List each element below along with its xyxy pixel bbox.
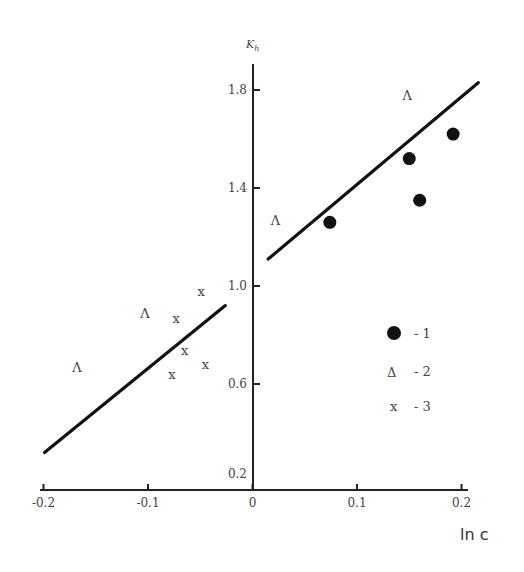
fit-lines: [45, 83, 479, 453]
legend: - 1 Δ - 2 x - 3: [387, 326, 431, 414]
x-tick-label: 0: [249, 496, 257, 510]
y-tick-label: 1.8: [228, 83, 247, 97]
legend-label-2: - 2: [414, 364, 431, 379]
legend-label-3: - 3: [414, 399, 431, 414]
legend-triangle-icon: Δ: [387, 365, 396, 380]
x-marker-icon: x: [202, 357, 210, 372]
triangle-marker-icon: Λ: [401, 88, 412, 103]
triangle-marker-icon: Λ: [139, 306, 150, 321]
y-tick-label: 1.4: [228, 181, 247, 195]
x-tick-label: 0.1: [347, 496, 366, 510]
x-marker-icon: x: [173, 311, 181, 326]
chart: -0.2-0.100.10.2 0.20.61.01.41.8 Kh ln c …: [0, 0, 524, 572]
x-marker-icon: x: [168, 367, 176, 382]
y-ticks: 0.20.61.01.41.8: [228, 83, 260, 481]
circle-marker-icon: [413, 194, 426, 207]
y-tick-label: 0.2: [228, 467, 247, 481]
x-tick-label: -0.1: [136, 496, 159, 510]
x-tick-label: -0.2: [32, 496, 55, 510]
y-axis-label: Kh: [245, 38, 259, 53]
legend-x-icon: x: [390, 399, 398, 414]
fit-right-line: [268, 83, 478, 259]
x-tick-label: 0.2: [452, 496, 471, 510]
y-tick-label: 1.0: [228, 279, 247, 293]
triangle-marker-icon: Λ: [270, 213, 281, 228]
circle-marker-icon: [323, 216, 336, 229]
legend-label-1: - 1: [414, 326, 431, 341]
fit-left-line: [45, 306, 226, 453]
legend-circle-icon: [387, 326, 401, 340]
y-tick-label: 0.6: [228, 377, 247, 391]
x-ticks: -0.2-0.100.10.2: [32, 484, 471, 510]
x-marker-icon: x: [198, 284, 206, 299]
x-marker-icon: x: [181, 343, 189, 358]
circle-marker-icon: [447, 128, 460, 141]
data-points: ΛΛΛΛxxxxx: [71, 88, 459, 382]
x-axis-label: ln c: [460, 525, 488, 544]
triangle-marker-icon: Λ: [71, 360, 82, 375]
axes: [40, 64, 468, 490]
circle-marker-icon: [403, 152, 416, 165]
